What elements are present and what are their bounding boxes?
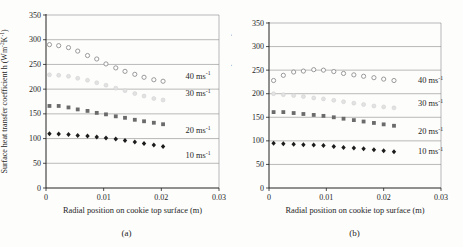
x-axis-title: Radial position on cookie top surface (m… [285,206,424,215]
data-point-diamond [152,142,156,147]
y-tick-label: 100 [29,134,41,143]
y-tick-label: 300 [252,42,264,51]
x-tick-label: 0.03 [434,193,448,202]
series-label-1: 30 ms-1 [418,98,443,108]
y-tick-label: 200 [29,85,41,94]
data-point-light-circle [321,97,325,101]
data-point-open-circle [332,69,336,73]
chart-b-canvas: 05010015020025030035000.010.020.03Radial… [231,0,462,226]
data-point-light-circle [142,94,146,98]
data-point-open-circle [142,75,146,79]
data-point-open-circle [271,78,275,82]
data-point-diamond [332,144,336,149]
series-label-1: 30 ms-1 [186,88,211,98]
x-tick-labels: 00.010.020.03 [267,193,448,202]
x-tick-label: 0.01 [319,193,333,202]
data-point-diamond [104,136,108,141]
series-label-2: 20 ms-1 [186,125,211,135]
series-3 [271,141,396,154]
data-point-open-circle [123,69,127,73]
x-tick-label: 0.03 [212,193,226,202]
data-point-light-circle [76,76,80,80]
gridlines [46,15,219,188]
data-point-square [372,121,376,125]
data-point-square [114,114,118,118]
series-1 [272,92,396,110]
data-point-diamond [312,143,316,148]
data-point-diamond [321,143,325,148]
data-point-light-circle [272,92,276,96]
data-point-light-circle [312,96,316,100]
y-tick-label: 250 [29,60,41,69]
data-point-square [272,110,276,114]
series-3 [47,131,165,149]
gridlines [269,23,441,188]
data-point-light-circle [114,86,118,90]
data-point-light-circle [133,92,137,96]
data-point-light-circle [152,97,156,101]
x-axis-title: Radial position on cookie top surface (m… [63,206,202,215]
data-point-square [322,114,326,118]
series-label-0: 40 ms-1 [186,70,211,80]
data-point-open-circle [341,71,345,75]
data-point-diamond [56,132,60,137]
y-tick-label: 250 [252,66,264,75]
data-point-open-circle [312,68,316,72]
series-label-3: 10 ms-1 [418,146,443,156]
data-point-square [382,122,386,126]
data-point-open-circle [362,74,366,78]
data-point-square [48,104,52,108]
x-tick-label: 0.02 [377,193,391,202]
data-point-light-circle [372,104,376,108]
data-point-open-circle [352,73,356,77]
y-tick-label: 300 [29,35,41,44]
y-tick-label: 150 [252,113,264,122]
x-tick-label: 0.02 [154,193,168,202]
data-point-open-circle [133,72,137,76]
data-point-light-circle [57,73,61,77]
data-point-square [76,108,80,112]
data-point-diamond [47,131,51,136]
data-point-diamond [341,145,345,150]
y-tick-labels: 050100150200250300350 [252,19,264,193]
x-tick-label: 0 [44,193,48,202]
data-point-diamond [281,141,285,146]
chart-a-caption: (a) [0,228,231,238]
data-point-open-circle [161,79,165,83]
data-point-square [123,116,127,120]
data-point-light-circle [104,83,108,87]
chart-a-canvas: 05010015020025030035000.010.020.03Radial… [0,0,231,226]
y-tick-label: 200 [252,89,264,98]
data-point-light-circle [95,81,99,85]
data-point-square [312,113,316,117]
data-point-square [67,106,71,110]
data-point-open-circle [152,78,156,82]
y-tick-label: 0 [260,184,264,193]
data-point-diamond [372,147,376,152]
data-point-square [392,124,396,128]
data-point-light-circle [332,98,336,102]
data-point-open-circle [95,57,99,61]
data-point-light-circle [86,78,90,82]
data-point-diamond [301,142,305,147]
data-point-diamond [352,145,356,150]
y-tick-label: 350 [252,19,264,28]
data-point-square [362,120,366,124]
data-point-open-circle [281,73,285,77]
data-point-diamond [271,141,275,146]
data-point-square [161,122,165,126]
y-axis-title: Surface heat transfer coefficient h (Wm-… [231,33,232,177]
data-point-square [86,109,90,113]
data-point-open-circle [392,78,396,82]
y-axis-title: Surface heat transfer coefficient h (Wm-… [0,29,9,173]
data-point-open-circle [321,68,325,72]
y-tick-label: 150 [29,109,41,118]
data-point-open-circle [57,44,61,48]
chart-b-caption: (b) [231,228,462,238]
series-label-2: 20 ms-1 [418,126,443,136]
data-point-diamond [114,137,118,142]
data-point-diamond [66,132,70,137]
data-point-light-circle [66,74,70,78]
data-point-light-circle [281,93,285,97]
series-label-3: 10 ms-1 [186,150,211,160]
